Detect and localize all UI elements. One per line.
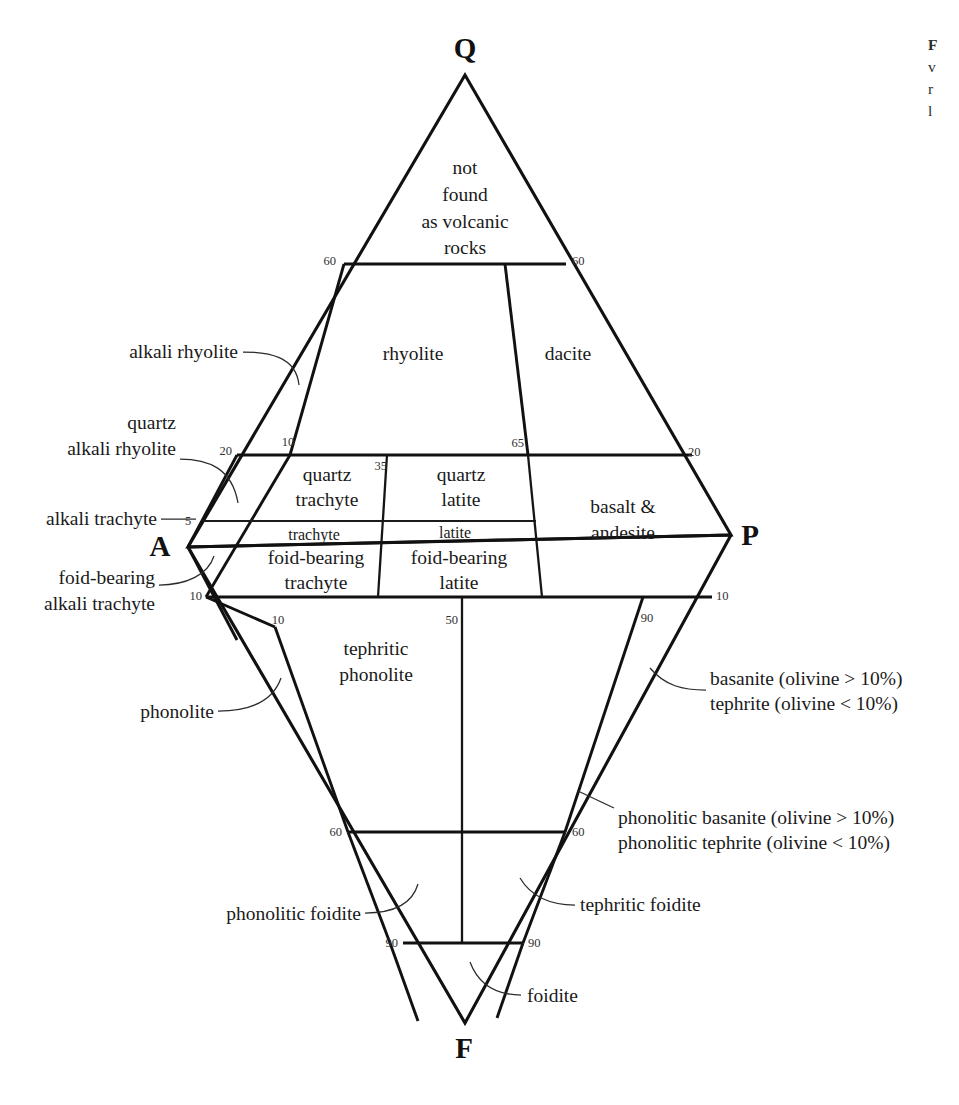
field-label-foid-bearing-trachyte-line2: trachyte [285, 572, 348, 593]
tick-q-left-60: 60 [324, 254, 337, 268]
vertex-label-F: F [455, 1032, 473, 1064]
field-label-foid-bearing-latite-line2: latite [440, 572, 479, 593]
boundary-phonolitic-foidite-diagonal-lower [390, 943, 418, 1021]
external-label-quartz-alkali-rhyolite-line1: quartz [127, 412, 176, 433]
tick-f-left-60: 60 [330, 825, 343, 839]
tick-quartz-latite-35: 35 [375, 459, 388, 473]
external-label-foidite: foidite [527, 985, 578, 1006]
field-label-not-found-line4: rocks [444, 237, 486, 258]
field-label-dacite: dacite [545, 343, 592, 364]
boundary-phonolite-left-diagonal [275, 627, 348, 832]
caption-line-2: v [928, 56, 959, 78]
figure-caption-clipped: F v r l [928, 34, 959, 122]
field-label-basalt-andesite-line2: andesite [591, 522, 655, 543]
field-label-quartz-trachyte-line2: trachyte [296, 489, 359, 510]
boundary-ap90-diagonal [565, 597, 643, 832]
external-label-phonolitic-basanite: phonolitic basanite (olivine > 10%) [618, 807, 894, 829]
field-label-quartz-latite-line2: latite [442, 489, 481, 510]
boundary-alkali-left-diagonal-upper [188, 455, 237, 547]
tick-p-side-10: 10 [716, 589, 729, 603]
tick-f-left-90: 90 [386, 936, 399, 950]
tick-quartz-trachyte-10: 10 [282, 435, 295, 449]
leader-quartz-alkali-rhyolite [180, 459, 238, 503]
tick-tephritic-90: 90 [641, 611, 654, 625]
leader-phonolite [218, 678, 281, 711]
caption-line-4: l [928, 100, 959, 122]
qapf-svg-canvas: Q A P F not found as volcanic rocks rhyo… [0, 0, 959, 1105]
vertex-label-Q: Q [454, 32, 477, 64]
external-label-phonolitic-foidite: phonolitic foidite [226, 903, 361, 924]
field-label-tephritic-phonolite-line2: phonolite [339, 664, 413, 685]
outline-lower-triangle [188, 535, 731, 1023]
external-label-phonolite: phonolite [140, 701, 214, 722]
boundary-ap10-diagonal-extension [206, 597, 275, 627]
qapf-diagram: Q A P F not found as volcanic rocks rhyo… [0, 0, 959, 1105]
leader-alkali-rhyolite [243, 352, 299, 385]
boundary-ap35-diagonal [378, 455, 387, 597]
external-label-tephritic-foidite: tephritic foidite [580, 894, 701, 915]
external-label-alkali-trachyte: alkali trachyte [46, 508, 157, 529]
boundary-ap10-diagonal [206, 455, 290, 597]
tick-a-side-5: 5 [185, 514, 191, 528]
tick-f-right-60: 60 [572, 825, 585, 839]
external-label-alkali-rhyolite: alkali rhyolite [129, 341, 238, 362]
tick-dacite-65: 65 [512, 436, 525, 450]
field-label-not-found-line3: as volcanic [421, 211, 509, 232]
field-label-foid-bearing-trachyte-line1: foid-bearing [268, 547, 365, 568]
tick-a-side-10: 10 [190, 589, 203, 603]
tick-a-side-20: 20 [220, 444, 233, 458]
external-label-basanite: basanite (olivine > 10%) [710, 668, 902, 690]
field-label-quartz-trachyte-line1: quartz [303, 464, 352, 485]
tick-q-right-60: 60 [572, 254, 585, 268]
field-label-tephritic-phonolite-line1: tephritic [344, 638, 409, 659]
boundary-ap65-diagonal [528, 455, 542, 597]
tick-tephritic-10: 10 [272, 613, 285, 627]
caption-line-3: r [928, 78, 959, 100]
field-label-trachyte: trachyte [288, 526, 340, 544]
external-label-quartz-alkali-rhyolite-line2: alkali rhyolite [67, 438, 176, 459]
external-label-tephrite: tephrite (olivine < 10%) [710, 693, 898, 715]
field-label-latite: latite [439, 524, 471, 541]
field-label-foid-bearing-latite-line1: foid-bearing [411, 547, 508, 568]
tick-tephritic-50: 50 [446, 613, 459, 627]
field-label-rhyolite: rhyolite [383, 343, 444, 364]
field-label-quartz-latite-line1: quartz [437, 464, 486, 485]
external-label-foid-bearing-alkali-trachyte-line2: alkali trachyte [44, 593, 155, 614]
field-label-not-found-line2: found [442, 184, 488, 205]
external-label-foid-bearing-alkali-trachyte-line1: foid-bearing [59, 567, 156, 588]
boundary-rhyolite-dacite [505, 264, 528, 455]
boundary-phonolitic-foidite-diagonal [348, 832, 390, 943]
vertex-label-P: P [741, 519, 759, 551]
field-label-basalt-andesite-line1: basalt & [590, 496, 656, 517]
caption-line-1: F [928, 34, 959, 56]
tick-f-right-90: 90 [528, 936, 541, 950]
field-label-not-found-line1: not [453, 157, 479, 178]
external-label-phonolitic-tephrite: phonolitic tephrite (olivine < 10%) [618, 832, 890, 854]
vertex-label-A: A [150, 530, 171, 562]
boundary-ap90-diagonal-mid [523, 832, 565, 943]
tick-p-side-20: 20 [688, 445, 701, 459]
